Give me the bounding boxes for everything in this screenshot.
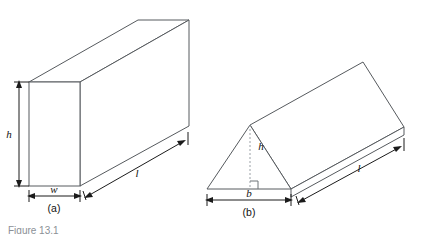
- cuboid-height-label: h: [6, 128, 12, 140]
- triangular-prism-diagram: h b l (b): [205, 62, 404, 218]
- cuboid-height-dimension: [14, 80, 29, 188]
- geometry-figure: h w l (a): [0, 0, 421, 234]
- prism-height-label: h: [258, 140, 264, 152]
- prism-base-label: b: [246, 187, 252, 199]
- figure-caption: Figure 13.1: [8, 225, 59, 234]
- figure-canvas: h w l (a): [0, 0, 421, 234]
- cuboid-length-label: l: [135, 167, 138, 179]
- rectangular-prism-diagram: h w l (a): [6, 20, 189, 214]
- cuboid-width-label: w: [50, 183, 58, 195]
- panel-label-a: (a): [48, 202, 61, 214]
- cuboid-front-face: [29, 82, 80, 186]
- panel-label-b: (b): [243, 206, 256, 218]
- prism-length-label: l: [357, 162, 360, 174]
